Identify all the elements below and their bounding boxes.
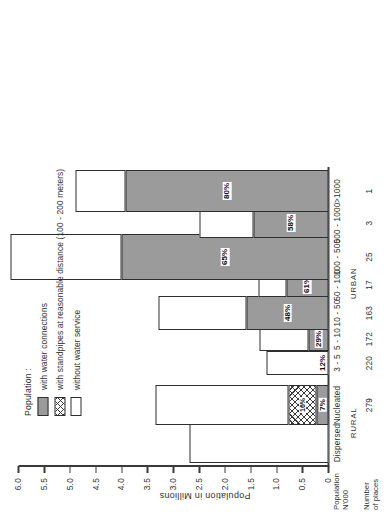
value-axis-tick: [250, 467, 251, 474]
value-axis-tick-label: 4.5: [90, 478, 100, 512]
category-label: >1000: [332, 159, 341, 223]
group-label-urban: URBAN: [348, 267, 357, 299]
value-axis-tick-label: 0: [322, 478, 332, 512]
bar-segment-noservice[interactable]: [158, 296, 247, 330]
row-header-places-line1: Number: [361, 482, 370, 510]
chart-figure-wrapper: 6.05.55.04.54.03.53.02.52.01.51.00.50 Po…: [0, 0, 385, 512]
bar-percentage-label-secondary: 16%: [298, 397, 305, 413]
chart-legend: Population : with water connectionswith …: [22, 166, 87, 416]
legend-item: with water connections: [37, 166, 48, 416]
bar-group[interactable]: 29%: [259, 327, 328, 351]
bar-percentage-label: 12%: [318, 354, 326, 372]
row-header-population-line2: N'000: [340, 490, 349, 510]
value-axis-tick: [69, 467, 70, 474]
legend-swatch-standpipes: [54, 397, 65, 416]
legend-swatch-noservice: [70, 397, 81, 416]
value-axis-tick: [224, 467, 225, 474]
value-axis-tick: [276, 467, 277, 474]
group-label-rural: RURAL: [348, 407, 357, 438]
legend-item: with standpipes at reasonable distance (…: [54, 166, 65, 416]
value-axis-tick: [146, 467, 147, 474]
places-count-label: 1: [364, 159, 373, 223]
row-header-places: Number of places: [362, 479, 379, 510]
legend-item-label: with water connections: [38, 303, 48, 390]
value-axis-tick-label: 4.0: [115, 478, 125, 512]
category-axis-labels: DispersedNucleated2793 - 52205 - 1017210…: [330, 167, 385, 467]
value-axis-tick: [43, 467, 44, 474]
value-axis-tick: [121, 467, 122, 474]
bar-percentage-label: 7%: [318, 398, 326, 412]
bar-group[interactable]: 80%: [75, 170, 328, 212]
legend-items: with water connectionswith standpipes at…: [37, 166, 81, 416]
bar-segment-noservice[interactable]: [199, 208, 253, 238]
legend-item-label: without water service: [71, 310, 81, 390]
bar-group[interactable]: 7%16%: [155, 385, 328, 425]
bar-percentage-label: 80%: [223, 182, 231, 200]
bar-percentage-label: 29%: [314, 330, 322, 348]
value-axis-tick-label: 1.0: [270, 478, 280, 512]
bar-group[interactable]: [189, 423, 329, 463]
value-axis-tick-label: 5.0: [64, 478, 74, 512]
value-axis-tick-label: 0.5: [296, 478, 306, 512]
value-axis-tick: [327, 467, 328, 474]
value-axis-tick: [17, 467, 18, 474]
bar-segment-noservice[interactable]: [189, 423, 329, 463]
plot-area: 6.05.55.04.54.03.53.02.52.01.51.00.50 Po…: [0, 0, 385, 512]
bar-group[interactable]: 12%: [266, 351, 328, 375]
legend-item-label: with standpipes at reasonable distance (…: [54, 169, 64, 390]
legend-item: without water service: [70, 166, 81, 416]
bar-segment-noservice[interactable]: [259, 327, 308, 351]
value-axis-tick: [95, 467, 96, 474]
row-header-population-line1: Population: [331, 473, 340, 510]
water-supply-population-bar-chart: 6.05.55.04.54.03.53.02.52.01.51.00.50 Po…: [0, 0, 385, 512]
legend-swatch-connections: [37, 397, 48, 416]
bar-percentage-label: 65%: [220, 248, 228, 266]
row-header-places-line2: of places: [370, 479, 379, 510]
value-axis-tick: [172, 467, 173, 474]
bar-percentage-label: 48%: [283, 304, 291, 322]
value-axis-tick-label: 6.0: [12, 478, 22, 512]
y-axis-title: Population in Millions: [159, 491, 250, 501]
bar-percentage-label: 58%: [286, 214, 294, 232]
value-axis-tick-label: 5.5: [38, 478, 48, 512]
row-header-population: Population N'000: [332, 473, 349, 510]
value-axis-tick: [301, 467, 302, 474]
value-axis-tick: [198, 467, 199, 474]
bar-group[interactable]: 58%: [199, 208, 328, 238]
bar-group[interactable]: 48%: [158, 296, 329, 330]
value-axis-tick-label: 3.5: [141, 478, 151, 512]
legend-title: Population :: [22, 166, 32, 416]
bar-segment-noservice[interactable]: [155, 385, 288, 425]
